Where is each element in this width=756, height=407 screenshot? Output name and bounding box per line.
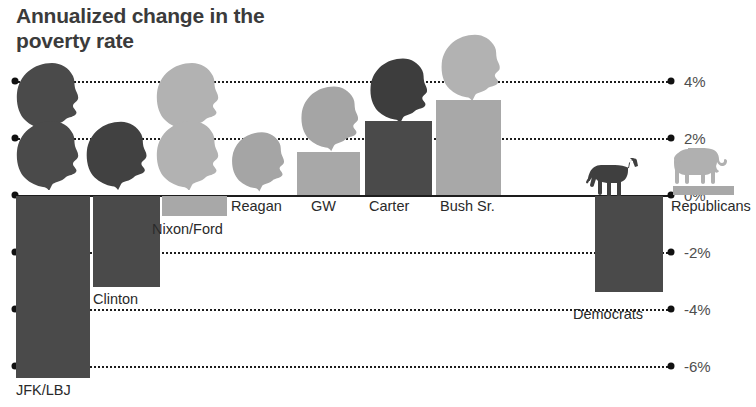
bar-bush-sr[interactable] [436,100,501,195]
president-head-icon [437,32,511,102]
category-label-republicans: Republicans [671,198,751,214]
president-head-icon [152,120,230,190]
bar-clinton[interactable] [93,196,160,287]
bar-nixon-ford[interactable] [162,196,227,216]
president-head-icon [297,84,369,152]
category-label-democrats: Democrats [573,306,643,322]
gridline-neg6 [14,366,672,368]
elephant-icon [670,145,736,191]
bar-gw[interactable] [297,152,360,195]
gridline-4 [14,81,672,83]
bar-democrats[interactable] [595,196,663,292]
donkey-icon [585,158,657,198]
plot-area: 4% 2% 0% -2% -4% -6% [0,0,756,407]
tick-dot-right-2 [668,135,675,142]
president-head-icon [228,130,294,192]
tick-dot-right-neg4 [668,306,675,313]
axis-label-2: 2% [684,130,706,147]
axis-label-neg4: -4% [684,301,711,318]
category-label-jfk-lbj: JFK/LBJ [16,382,71,398]
poverty-rate-chart: Annualized change in the poverty rate 4%… [0,0,756,407]
president-head-icon [366,56,438,124]
bar-republicans[interactable] [673,186,734,195]
president-head-icon [12,120,90,190]
category-label-reagan: Reagan [231,198,282,214]
category-label-bush-sr: Bush Sr. [440,198,495,214]
president-head-icon [82,120,158,190]
axis-label-neg2: -2% [684,244,711,261]
axis-label-neg6: -6% [684,358,711,375]
category-label-clinton: Clinton [93,291,138,307]
category-label-carter: Carter [369,198,409,214]
bar-jfk-lbj[interactable] [16,196,90,378]
bar-carter[interactable] [365,121,432,195]
tick-dot-right-neg6 [668,363,675,370]
category-label-gw: GW [311,198,336,214]
axis-label-4: 4% [684,73,706,90]
tick-dot-right-neg2 [668,249,675,256]
category-label-nixon-ford: Nixon/Ford [152,221,223,237]
tick-dot-right-4 [668,78,675,85]
